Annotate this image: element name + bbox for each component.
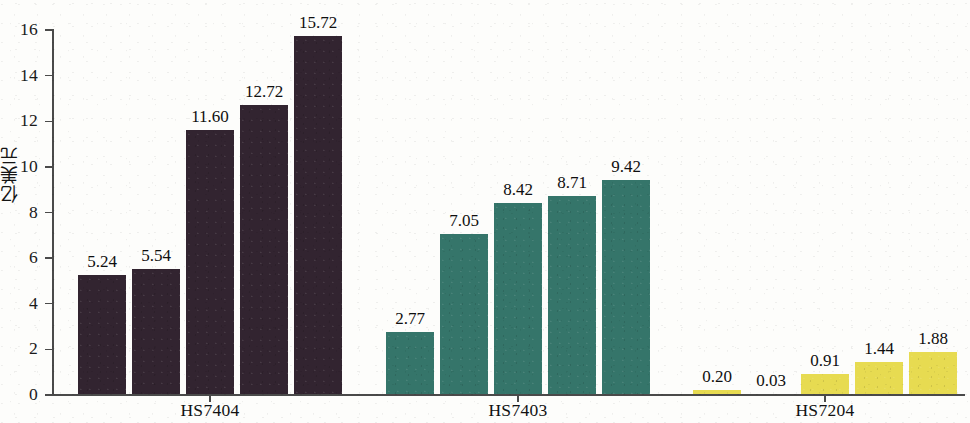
bar-value-label: 15.72 — [288, 14, 348, 31]
bar-value-label: 0.91 — [795, 352, 855, 369]
bar-chart: 亿美元 0246810121416 HS7404HS7403HS7204 5.2… — [0, 0, 970, 423]
y-axis-tick-label: 14 — [4, 67, 38, 85]
bar-value-label: 5.54 — [126, 247, 186, 264]
bar-value-label: 8.42 — [488, 181, 548, 198]
bar — [78, 275, 126, 395]
bar-value-label: 0.20 — [687, 368, 747, 385]
bar — [186, 130, 234, 395]
y-axis-tick — [45, 257, 53, 258]
y-axis-tick-label: 4 — [4, 295, 38, 313]
y-axis-tick — [45, 303, 53, 304]
y-axis-tick-label: 12 — [4, 112, 38, 130]
bar — [132, 269, 180, 395]
bar-value-label: 1.88 — [903, 330, 963, 347]
y-axis-tick-label: 16 — [4, 21, 38, 39]
y-axis-tick — [45, 121, 53, 122]
bar — [240, 105, 288, 395]
bar-value-label: 1.44 — [849, 340, 909, 357]
x-axis-line — [52, 394, 965, 396]
y-axis-tick — [45, 349, 53, 350]
x-axis-group-label-hs7403: HS7403 — [458, 402, 578, 420]
bar — [294, 36, 342, 395]
plot-area — [53, 30, 965, 395]
bar-value-label: 5.24 — [72, 253, 132, 270]
y-axis-tick — [45, 166, 53, 167]
bar-value-label: 12.72 — [234, 83, 294, 100]
bar-value-label: 0.03 — [741, 372, 801, 389]
y-axis-tick-label: 2 — [4, 340, 38, 358]
y-axis-tick — [45, 75, 53, 76]
bar-value-label: 2.77 — [380, 310, 440, 327]
y-axis-tick — [45, 29, 53, 30]
bar — [855, 362, 903, 395]
x-axis-group-label-hs7404: HS7404 — [150, 402, 270, 420]
bar — [909, 352, 957, 395]
bar — [386, 332, 434, 395]
bar — [494, 203, 542, 395]
bar — [548, 196, 596, 395]
y-axis-tick — [45, 212, 53, 213]
bar — [602, 180, 650, 395]
y-axis-tick-label: 8 — [4, 204, 38, 222]
bar — [440, 234, 488, 395]
bar-value-label: 8.71 — [542, 174, 602, 191]
x-axis-group-label-hs7204: HS7204 — [765, 402, 885, 420]
bar — [801, 374, 849, 395]
y-axis-tick — [45, 394, 53, 395]
bar-value-label: 7.05 — [434, 212, 494, 229]
y-axis-tick-label: 0 — [4, 386, 38, 404]
bar-value-label: 11.60 — [180, 108, 240, 125]
bar-value-label: 9.42 — [596, 158, 656, 175]
y-axis-tick-label: 10 — [4, 158, 38, 176]
y-axis-tick-label: 6 — [4, 249, 38, 267]
